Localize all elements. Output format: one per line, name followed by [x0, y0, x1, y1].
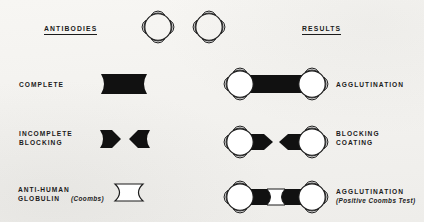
complete-antibody-shape	[97, 74, 151, 94]
row-complete-result-label: AGGLUTINATION	[336, 81, 404, 90]
antibodies-column-header: ANTIBODIES	[44, 25, 97, 35]
row-coombs-result-sublabel: (Positive Coombs Test)	[336, 197, 416, 204]
top-red-blood-cell-2	[190, 8, 228, 46]
row-complete-antibody-label: COMPLETE	[19, 81, 64, 90]
result-agglutination-figure	[218, 62, 334, 106]
results-column-header: RESULTS	[302, 25, 341, 35]
top-red-blood-cell-1	[139, 8, 177, 46]
row-incomplete-result-label: BLOCKING COATING	[336, 130, 380, 147]
result-blocking-coating-figure	[218, 120, 334, 164]
row-coombs-antibody-label: ANTI-HUMAN GLOBULIN	[18, 186, 70, 203]
row-incomplete-antibody-label: INCOMPLETE BLOCKING	[19, 130, 73, 147]
incomplete-antibody-shape-left	[98, 130, 122, 148]
row-coombs-antibody-label-italic: (Coombs)	[71, 195, 104, 202]
coombs-antibody-shape	[112, 183, 146, 202]
diagram-canvas: ANTIBODIES RESULTS COMPLETE	[0, 0, 424, 222]
result-coombs-agglutination-figure	[218, 175, 334, 219]
row-coombs-result-label: AGGLUTINATION	[336, 188, 404, 197]
incomplete-antibody-shape-right	[128, 130, 152, 148]
